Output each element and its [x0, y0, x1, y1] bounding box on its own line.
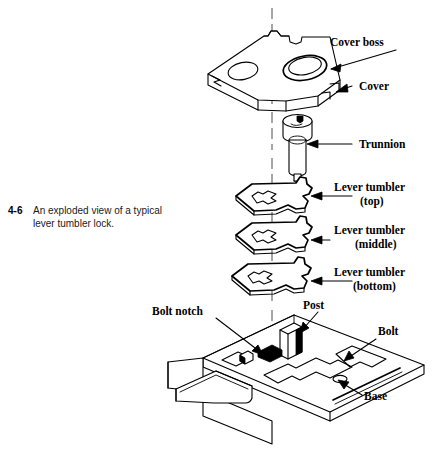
- figure-page: An exploded view of a typical lever tumb…: [0, 0, 437, 453]
- label-lever-tumbler-top-sub: (top): [360, 195, 384, 208]
- lever-tumbler-top-part: [236, 177, 312, 215]
- label-lever-tumbler-middle-sub: (middle): [355, 238, 397, 251]
- label-lever-tumbler-middle: Lever tumbler: [334, 224, 405, 236]
- lever-tumbler-bottom-part: [232, 257, 311, 295]
- cover-part: [208, 31, 340, 111]
- exploded-view-diagram: An exploded view of a typical lever tumb…: [0, 0, 437, 453]
- label-lever-tumbler-bottom-sub: (bottom): [353, 280, 396, 293]
- label-trunnion: Trunnion: [359, 138, 406, 150]
- label-cover-boss: Cover boss: [330, 36, 384, 48]
- label-bolt-notch: Bolt notch: [152, 305, 203, 317]
- label-post: Post: [303, 299, 324, 311]
- figure-caption: 4-6 An exploded view of a typical lever …: [8, 205, 162, 229]
- caption-line-2: lever tumbler lock.: [33, 218, 114, 229]
- label-bolt: Bolt: [378, 325, 399, 337]
- caption-line-1: An exploded view of a typical: [33, 205, 162, 216]
- label-cover: Cover: [359, 80, 389, 92]
- label-base: Base: [364, 390, 387, 402]
- lever-tumbler-middle-part: [236, 216, 312, 254]
- post-part: [280, 323, 302, 359]
- label-lever-tumbler-top: Lever tumbler: [334, 181, 405, 193]
- label-lever-tumbler-bottom: Lever tumbler: [334, 266, 405, 278]
- trunnion-part: [283, 115, 312, 184]
- figure-number: 4-6: [8, 205, 23, 216]
